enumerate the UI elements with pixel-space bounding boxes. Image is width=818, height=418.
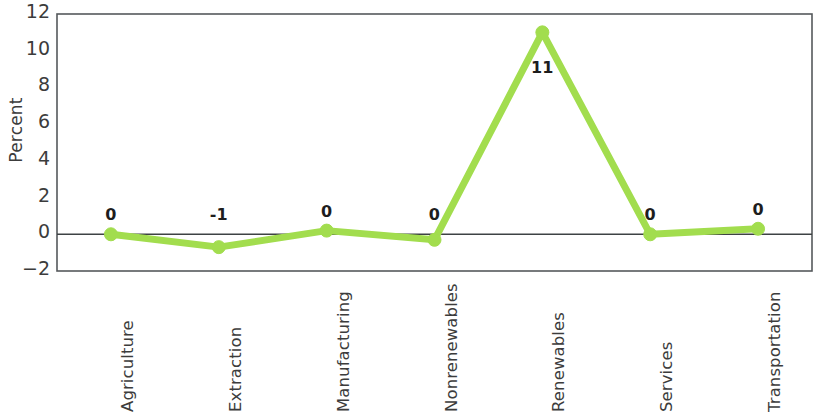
x-axis-tick-label: Services xyxy=(657,342,676,412)
data-point-label: 11 xyxy=(531,58,554,77)
data-point-marker xyxy=(320,224,333,237)
x-axis-tick-label: Manufacturing xyxy=(334,291,353,412)
data-point-marker xyxy=(644,228,657,241)
data-point-label: 0 xyxy=(752,200,763,219)
percent-change-line-chart: Percent 121086420−2 0-1001100 Agricultur… xyxy=(0,0,818,418)
data-point-label: -1 xyxy=(210,205,228,224)
data-point-label: 0 xyxy=(321,202,332,221)
data-point-label: 0 xyxy=(645,205,656,224)
x-axis-tick-label: Renewables xyxy=(549,312,568,412)
x-axis-tick-label: Extraction xyxy=(226,327,245,412)
data-point-marker xyxy=(428,233,441,246)
x-axis-tick-label: Agriculture xyxy=(118,320,137,412)
data-point-label: 0 xyxy=(429,205,440,224)
data-point-marker xyxy=(752,222,765,235)
x-axis-tick-label: Nonrenewables xyxy=(442,283,461,412)
data-point-marker xyxy=(212,241,225,254)
data-point-marker xyxy=(104,228,117,241)
x-axis-tick-label: Transportation xyxy=(765,291,784,412)
data-point-marker xyxy=(536,26,549,39)
data-point-label: 0 xyxy=(105,205,116,224)
